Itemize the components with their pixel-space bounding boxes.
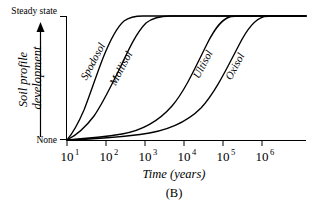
- x-axis-title: Time (years): [143, 167, 206, 181]
- x-tick-label-5: 10 5: [217, 147, 236, 164]
- x-tick-exp-2: 2: [114, 147, 118, 157]
- x-tick-base-1: 10: [61, 149, 74, 164]
- soil-profile-development-figure: Steady state None Soil profile developme…: [0, 0, 314, 204]
- x-tick-label-1: 10 1: [61, 147, 80, 164]
- x-tick-base-2: 10: [100, 149, 113, 164]
- x-tick-base-5: 10: [217, 149, 230, 164]
- curve-label-oxisol: Oxisol: [222, 51, 246, 82]
- curve-spodosol: [67, 16, 306, 140]
- y-axis-label-steady-state: Steady state: [11, 6, 57, 16]
- curve-label-ultisol: Ultisol: [190, 48, 215, 80]
- curve-label-mollisol: Mollisol: [106, 49, 134, 88]
- curve-oxisol: [67, 16, 306, 140]
- x-tick-label-4: 10 4: [178, 147, 197, 164]
- y-axis-title-line-1: Soil profile: [16, 51, 30, 107]
- x-tick-exp-3: 3: [153, 147, 157, 157]
- curve-mollisol: [67, 16, 306, 140]
- x-tick-exp-4: 4: [192, 147, 197, 157]
- y-axis-title: Soil profile development: [16, 46, 44, 110]
- figure-caption: (B): [166, 186, 183, 200]
- x-tick-exp-1: 1: [75, 147, 79, 157]
- curve-label-spodosol: Spodosol: [78, 40, 108, 81]
- x-tick-base-4: 10: [178, 149, 191, 164]
- curve-ultisol: [67, 16, 306, 140]
- chart-canvas: Steady state None Soil profile developme…: [0, 0, 314, 204]
- x-tick-base-3: 10: [139, 149, 152, 164]
- x-tick-label-2: 10 2: [100, 147, 119, 164]
- y-axis-label-none: None: [36, 135, 57, 145]
- x-tick-exp-5: 5: [231, 147, 235, 157]
- y-axis-title-line-2: development: [30, 46, 44, 110]
- x-tick-exp-6: 6: [270, 147, 274, 157]
- x-tick-base-6: 10: [256, 149, 269, 164]
- x-tick-label-3: 10 3: [139, 147, 158, 164]
- y-axis-arrow-head-icon: [37, 22, 45, 32]
- x-tick-label-6: 10 6: [256, 147, 275, 164]
